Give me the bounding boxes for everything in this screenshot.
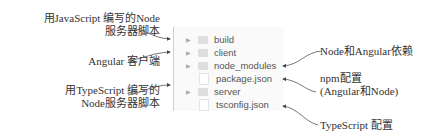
arrow-to-tsconfig — [283, 106, 318, 125]
arrow-to-package-json — [283, 79, 316, 92]
arrow-to-client — [128, 52, 170, 61]
arrows-layer — [0, 0, 429, 140]
arrow-to-server — [128, 85, 170, 95]
arrow-to-build — [128, 29, 170, 39]
arrow-to-node-modules — [283, 51, 322, 66]
